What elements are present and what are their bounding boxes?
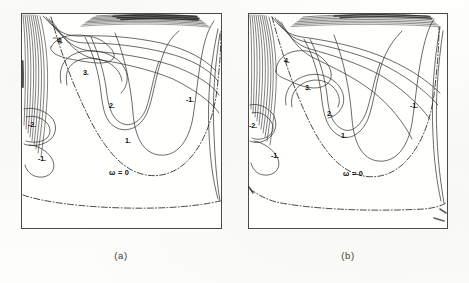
panel-b-caption: (b) xyxy=(318,250,378,261)
contour-panel-a: 4. 3. 2. 1. -2. -1. -1. ω = 0 xyxy=(21,13,222,229)
contour-label: 2. xyxy=(327,109,333,118)
contour-label: 2. xyxy=(109,101,115,110)
contour-label: -1. xyxy=(186,95,194,104)
contour-label: 4. xyxy=(284,56,290,65)
contour-label: 3. xyxy=(83,68,89,77)
contour-label: -2. xyxy=(28,120,36,129)
figure-root: 4. 3. 2. 1. -2. -1. -1. ω = 0 (a) xyxy=(0,0,469,283)
panel-a-contours xyxy=(21,13,222,229)
zero-contour-label-b: ω = 0 xyxy=(343,169,363,178)
contour-label: 4. xyxy=(57,36,63,45)
contour-label: 1. xyxy=(341,131,347,140)
contour-label: 3. xyxy=(305,83,311,92)
contour-label: -1. xyxy=(410,101,418,110)
contour-label: -2. xyxy=(249,121,257,130)
zero-contour-label-a: ω = 0 xyxy=(109,168,129,177)
panel-b-contours xyxy=(248,13,448,229)
contour-label: -1. xyxy=(271,151,279,160)
contour-label: -1. xyxy=(38,154,46,163)
panel-a-caption: (a) xyxy=(91,250,151,261)
contour-label: 1. xyxy=(125,136,131,145)
contour-panel-b: 4. 3. 2. 1. -2. -1. -1. ω = 0 xyxy=(248,13,448,229)
